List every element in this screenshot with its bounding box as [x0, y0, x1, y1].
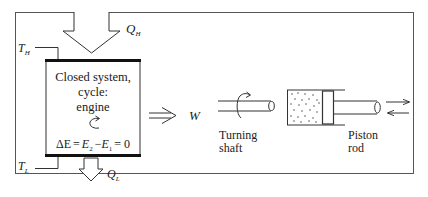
reservoir-low-leader [35, 157, 58, 169]
heat-engine-diagram: QH TH Closed system, cycle: engine ΔE=E2… [0, 0, 428, 197]
piston-rod-label-line2: rod [348, 141, 364, 155]
system-line1: Closed system, [55, 70, 131, 84]
turning-shaft-label-line2: shaft [219, 141, 243, 155]
system-line2: cycle: [78, 85, 108, 99]
heat-in-arrow-icon [63, 12, 120, 53]
reservoir-low-label: TL [18, 159, 29, 175]
heat-out-label: QL [107, 167, 120, 183]
reservoir-high-leader [35, 48, 58, 61]
engine-top-bar [45, 59, 141, 62]
heat-out-arrow-icon [79, 158, 103, 181]
reservoir-high-label: TH [18, 41, 31, 57]
system-line3: engine [76, 100, 110, 114]
engine-bottom-bar [45, 154, 141, 157]
reciprocating-arrows-icon [386, 102, 409, 113]
heat-in-label: QH [126, 21, 141, 38]
piston-cylinder-icon [287, 90, 380, 125]
turning-shaft-icon [218, 92, 274, 118]
work-label: W [189, 108, 201, 123]
piston-rod-label-line1: Piston [348, 128, 378, 142]
turning-shaft-label-line1: Turning [219, 128, 257, 142]
double-arrow-right-icon [149, 108, 176, 124]
